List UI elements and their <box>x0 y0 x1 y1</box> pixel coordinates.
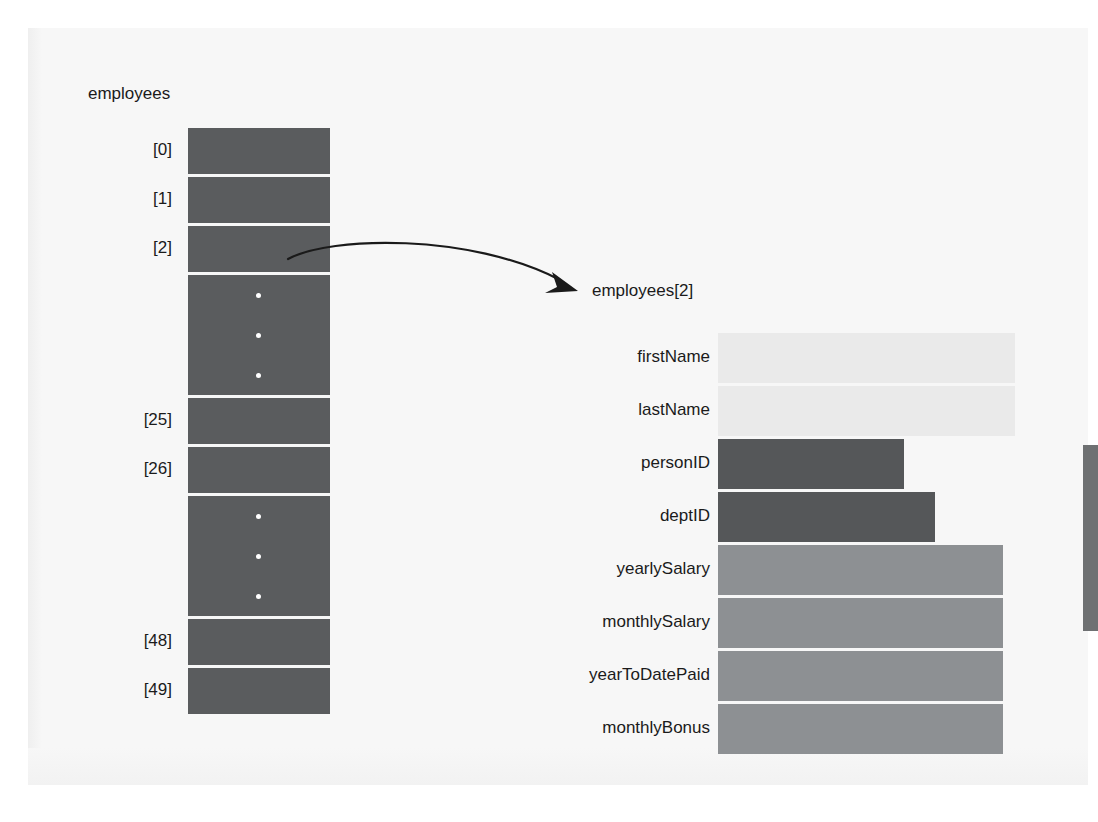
record-field-label: monthlySalary <box>480 612 710 632</box>
array-index-label: [2] <box>92 238 172 258</box>
diagram-page: employees [0][1][2][25][26][48][49] empl… <box>0 0 1098 822</box>
record-field-bar <box>718 598 1003 648</box>
record-field-label: deptID <box>480 506 710 526</box>
array-index-label: [26] <box>92 459 172 479</box>
record-field-bar <box>718 651 1003 701</box>
array-index-label: [48] <box>92 631 172 651</box>
array-index-label: [1] <box>92 189 172 209</box>
record-caption: employees[2] <box>592 281 693 301</box>
page-edge-tab <box>1083 445 1098 631</box>
ellipsis-dot <box>256 594 261 599</box>
array-cell <box>188 668 330 714</box>
record-field-label: lastName <box>480 400 710 420</box>
ellipsis-dot <box>256 293 261 298</box>
array-cell <box>188 398 330 444</box>
record-field-bar <box>718 704 1003 754</box>
array-cell <box>188 177 330 223</box>
array-cell-ellipsis <box>188 496 330 616</box>
record-field-bar <box>718 545 1003 595</box>
record-field-label: monthlyBonus <box>480 718 710 738</box>
record-field-label: firstName <box>480 347 710 367</box>
record-field-label: yearlySalary <box>480 559 710 579</box>
array-cell <box>188 447 330 493</box>
ellipsis-dot <box>256 554 261 559</box>
array-cell <box>188 619 330 665</box>
ellipsis-dot <box>256 514 261 519</box>
array-index-label: [25] <box>92 410 172 430</box>
array-cell-ellipsis <box>188 275 330 395</box>
array-index-label: [49] <box>92 680 172 700</box>
record-field-label: yearToDatePaid <box>480 665 710 685</box>
record-field-label: personID <box>480 453 710 473</box>
record-field-bar <box>718 492 935 542</box>
record-field-bar <box>718 386 1015 436</box>
array-cell <box>188 128 330 174</box>
record-field-bar <box>718 333 1015 383</box>
record-field-bar <box>718 439 904 489</box>
array-variable-label: employees <box>88 84 170 104</box>
array-cell <box>188 226 330 272</box>
ellipsis-dot <box>256 373 261 378</box>
array-index-label: [0] <box>92 140 172 160</box>
ellipsis-dot <box>256 333 261 338</box>
page-sheet-left-shading <box>28 28 42 785</box>
